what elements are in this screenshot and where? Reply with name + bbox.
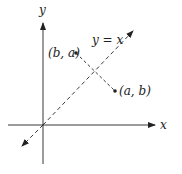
point-a-b-label: (a, b) xyxy=(119,84,151,98)
reflection-segment xyxy=(76,53,115,91)
point-b-a-label: (b, a) xyxy=(48,46,80,60)
line-label: y = x xyxy=(91,33,123,47)
x-axis-label: x xyxy=(160,118,167,132)
point-a-b xyxy=(113,89,117,93)
reflection-diagram: x y y = x (b, a) (a, b) xyxy=(0,0,182,174)
y-axis-label: y xyxy=(38,3,46,17)
